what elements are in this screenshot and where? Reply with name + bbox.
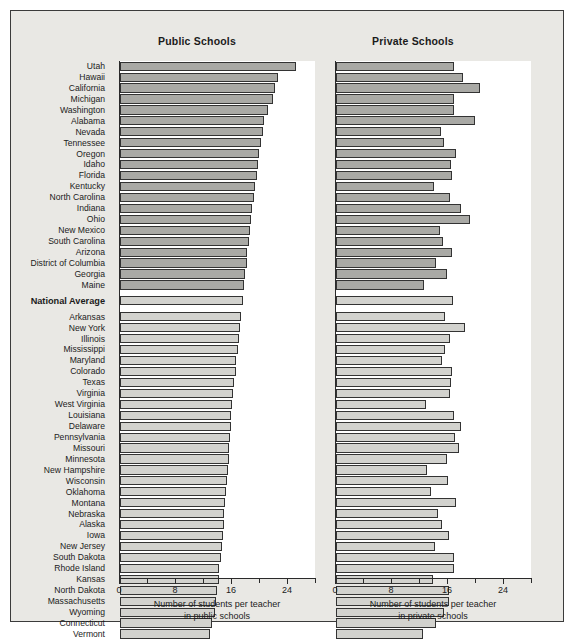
x-axis-public-tick-major: [119, 578, 120, 584]
state-label: Montana: [17, 498, 109, 509]
x-axis-public-tick-label: 24: [282, 585, 292, 595]
bar-row-public: [120, 269, 315, 280]
bar-public: [120, 498, 225, 507]
x-axis-public-tick-major: [287, 578, 288, 584]
axis-title-public: Number of students per teacher in public…: [95, 599, 339, 622]
bar-row-public: [120, 487, 315, 498]
bar-row-public: [120, 334, 315, 345]
bar-public: [120, 83, 275, 92]
bar-row-public: [120, 203, 315, 214]
bar-row-public: [120, 192, 315, 203]
plot-area-private: [335, 61, 531, 578]
bar-row-private: [336, 127, 531, 138]
state-label: New Hampshire: [17, 465, 109, 476]
bar-row-public: [120, 83, 315, 94]
bar-row-public: [120, 377, 315, 388]
bar-public: [120, 520, 224, 529]
bar-row-private: [336, 159, 531, 170]
state-label: Vermont: [17, 629, 109, 640]
state-label: Kansas: [17, 574, 109, 585]
state-label: New York: [17, 323, 109, 334]
axis-title-private-line2: in private schools: [311, 611, 555, 623]
bar-row-public: [120, 225, 315, 236]
bar-public: [120, 226, 250, 235]
bar-private: [336, 193, 450, 202]
bar-row-private: [336, 225, 531, 236]
state-label: West Virginia: [17, 399, 109, 410]
bar-private: [336, 356, 442, 365]
state-label: Iowa: [17, 530, 109, 541]
bar-public: [120, 171, 257, 180]
bar-private: [336, 498, 456, 507]
state-label: Nevada: [17, 127, 109, 138]
bar-row-private: [336, 454, 531, 465]
x-axis-private-tick-label: 24: [498, 585, 508, 595]
bar-public: [120, 454, 229, 463]
bar-row-private: [336, 258, 531, 269]
x-axis-private-tick-minor: [363, 578, 364, 583]
bar-public: [120, 62, 296, 71]
bar-row-private: [336, 105, 531, 116]
bar-private: [336, 443, 459, 452]
bar-row-private: [336, 519, 531, 530]
state-label: Virginia: [17, 388, 109, 399]
bar-private: [336, 62, 454, 71]
state-label: Missouri: [17, 443, 109, 454]
bar-row-public: [120, 454, 315, 465]
x-axis-public-tick-label: 8: [172, 585, 177, 595]
bar-row-private: [336, 552, 531, 563]
state-label: Mississippi: [17, 344, 109, 355]
bar-row-public: [120, 410, 315, 421]
x-axis-public-tick-minor: [315, 578, 316, 583]
bar-row-public: [120, 465, 315, 476]
bar-public: [120, 237, 249, 246]
bar-private: [336, 258, 436, 267]
bar-row-public: [120, 127, 315, 138]
bar-private: [336, 105, 454, 114]
bar-row-private: [336, 236, 531, 247]
bar-row-private: [336, 487, 531, 498]
bar-row-private: [336, 296, 531, 307]
state-label: Idaho: [17, 159, 109, 170]
bar-row-private: [336, 410, 531, 421]
state-label: Michigan: [17, 94, 109, 105]
bar-private: [336, 171, 452, 180]
bar-row-public: [120, 432, 315, 443]
bar-private: [336, 280, 424, 289]
bar-row-public: [120, 323, 315, 334]
bar-public: [120, 312, 241, 321]
bar-private: [336, 629, 423, 638]
x-axis-private-tick-major: [447, 578, 448, 584]
bar-row-public: [120, 509, 315, 520]
bar-row-private: [336, 138, 531, 149]
state-label: South Carolina: [17, 236, 109, 247]
bar-private: [336, 553, 454, 562]
bar-row-public: [120, 541, 315, 552]
bar-public: [120, 465, 228, 474]
bar-rows-public: [120, 61, 315, 640]
bar-row-private: [336, 61, 531, 72]
bar-private: [336, 312, 445, 321]
bar-private: [336, 476, 448, 485]
x-axis-private-tick-minor: [531, 578, 532, 583]
bar-private: [336, 116, 475, 125]
x-axis-private-tick-label: 8: [388, 585, 393, 595]
bar-row-public: [120, 72, 315, 83]
bar-public: [120, 345, 238, 354]
bar-row-public: [120, 170, 315, 181]
bar-row-private: [336, 541, 531, 552]
bar-private: [336, 367, 452, 376]
bar-row-public: [120, 94, 315, 105]
bar-row-private: [336, 192, 531, 203]
bar-public: [120, 378, 234, 387]
state-label: Maryland: [17, 355, 109, 366]
state-label: Ohio: [17, 214, 109, 225]
bar-public: [120, 553, 221, 562]
bar-row-private: [336, 334, 531, 345]
bar-private: [336, 334, 450, 343]
bar-private: [336, 465, 427, 474]
axis-title-private-line1: Number of students per teacher: [370, 599, 497, 609]
bar-public: [120, 248, 247, 257]
bar-public: [120, 258, 247, 267]
